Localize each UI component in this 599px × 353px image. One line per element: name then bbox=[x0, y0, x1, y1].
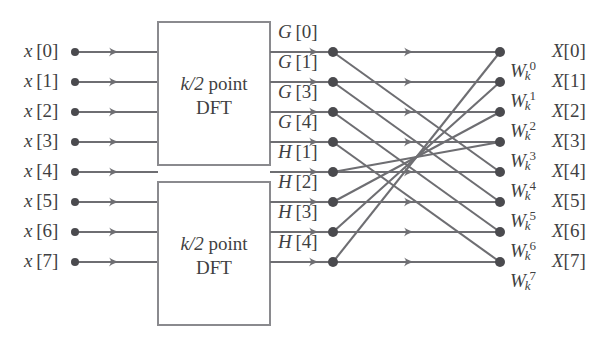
output-index-0: [0] bbox=[564, 40, 586, 61]
intermediate-label-4: H [1] bbox=[278, 142, 318, 161]
input-label-7: x [7] bbox=[24, 251, 58, 270]
butterfly-left-node-2 bbox=[328, 107, 338, 117]
input-dot-2 bbox=[71, 108, 79, 116]
twiddle-sup-5: 5 bbox=[530, 208, 537, 223]
butterfly-right-node-1 bbox=[495, 77, 505, 87]
output-index-2: [2] bbox=[564, 100, 586, 121]
twiddle-sup-3: 3 bbox=[530, 148, 537, 163]
intermediate-var-6: H bbox=[278, 201, 292, 222]
intermediate-label-2: G [3] bbox=[278, 82, 318, 101]
input-label-2: x [2] bbox=[24, 101, 58, 120]
dft-top-math: k/2 bbox=[180, 73, 203, 94]
input-index-1: [1] bbox=[32, 70, 58, 91]
output-label-4: X[4] bbox=[552, 161, 586, 180]
twiddle-base-2: W bbox=[510, 120, 526, 141]
input-label-3: x [3] bbox=[24, 131, 58, 150]
input-label-6: x [6] bbox=[24, 221, 58, 240]
twiddle-base-4: W bbox=[510, 180, 526, 201]
intermediate-var-0: G bbox=[278, 21, 292, 42]
input-index-2: [2] bbox=[32, 100, 58, 121]
intermediate-var-7: H bbox=[278, 231, 292, 252]
output-var-4: X bbox=[552, 160, 564, 181]
intermediate-label-5: H [2] bbox=[278, 172, 318, 191]
twiddle-sup-1: 1 bbox=[530, 88, 537, 103]
intermediate-index-1: [1] bbox=[292, 51, 318, 72]
output-label-7: X[7] bbox=[552, 251, 586, 270]
twiddle-base-0: W bbox=[510, 60, 526, 81]
output-label-5: X[5] bbox=[552, 191, 586, 210]
output-var-0: X bbox=[552, 40, 564, 61]
intermediate-index-2: [3] bbox=[292, 81, 318, 102]
fft-butterfly-diagram: x [0]x [1]x [2]x [3]x [4]x [5]x [6]x [7]… bbox=[0, 0, 599, 353]
dft-top-block-label: k/2 point DFT bbox=[160, 72, 268, 120]
butterfly-left-node-3 bbox=[328, 137, 338, 147]
butterfly-right-node-7 bbox=[495, 257, 505, 267]
dft-bottom-math: k/2 bbox=[180, 233, 203, 254]
input-index-6: [6] bbox=[32, 220, 58, 241]
input-dots bbox=[71, 48, 79, 266]
output-var-7: X bbox=[552, 250, 564, 271]
input-label-1: x [1] bbox=[24, 71, 58, 90]
input-dot-1 bbox=[71, 78, 79, 86]
twiddle-label-3: Wk3 bbox=[510, 149, 536, 172]
intermediate-label-1: G [1] bbox=[278, 52, 318, 71]
twiddle-sup-7: 7 bbox=[530, 268, 537, 283]
twiddle-sup-0: 0 bbox=[530, 58, 537, 73]
input-index-3: [3] bbox=[32, 130, 58, 151]
intermediate-var-4: H bbox=[278, 141, 292, 162]
output-label-3: X[3] bbox=[552, 131, 586, 150]
butterfly-right-node-2 bbox=[495, 107, 505, 117]
dft-block-outlines bbox=[158, 22, 270, 325]
intermediate-index-4: [1] bbox=[292, 141, 318, 162]
output-index-6: [6] bbox=[564, 220, 586, 241]
twiddle-label-7: Wk7 bbox=[510, 269, 536, 292]
input-dot-4 bbox=[71, 168, 79, 176]
intermediate-var-5: H bbox=[278, 171, 292, 192]
twiddle-label-1: Wk1 bbox=[510, 89, 536, 112]
dft-top-rest: point bbox=[204, 73, 248, 94]
twiddle-base-7: W bbox=[510, 270, 526, 291]
output-label-0: X[0] bbox=[552, 41, 586, 60]
twiddle-sup-4: 4 bbox=[530, 178, 537, 193]
twiddle-base-6: W bbox=[510, 240, 526, 261]
twiddle-label-6: Wk6 bbox=[510, 239, 536, 262]
twiddle-label-2: Wk2 bbox=[510, 119, 536, 142]
twiddle-base-1: W bbox=[510, 90, 526, 111]
input-label-5: x [5] bbox=[24, 191, 58, 210]
output-var-3: X bbox=[552, 130, 564, 151]
intermediate-label-3: G [4] bbox=[278, 112, 318, 131]
input-signal-lines bbox=[75, 52, 158, 262]
butterfly-right-node-3 bbox=[495, 137, 505, 147]
butterfly-right-node-6 bbox=[495, 227, 505, 237]
input-dot-7 bbox=[71, 258, 79, 266]
output-index-3: [3] bbox=[564, 130, 586, 151]
intermediate-label-7: H [4] bbox=[278, 232, 318, 251]
dft-bottom-rest: point bbox=[204, 233, 248, 254]
intermediate-index-0: [0] bbox=[292, 21, 318, 42]
butterfly-cross-7-to-0 bbox=[333, 52, 500, 262]
output-var-5: X bbox=[552, 190, 564, 211]
input-index-4: [4] bbox=[32, 160, 58, 181]
butterfly-left-node-5 bbox=[328, 197, 338, 207]
input-dot-0 bbox=[71, 48, 79, 56]
input-dot-6 bbox=[71, 228, 79, 236]
input-index-7: [7] bbox=[32, 250, 58, 271]
output-label-2: X[2] bbox=[552, 101, 586, 120]
output-index-1: [1] bbox=[564, 70, 586, 91]
output-var-2: X bbox=[552, 100, 564, 121]
butterfly-right-node-0 bbox=[495, 47, 505, 57]
twiddle-label-0: Wk0 bbox=[510, 59, 536, 82]
output-index-4: [4] bbox=[564, 160, 586, 181]
intermediate-var-1: G bbox=[278, 51, 292, 72]
twiddle-sup-2: 2 bbox=[530, 118, 537, 133]
intermediate-label-0: G [0] bbox=[278, 22, 318, 41]
twiddle-label-5: Wk5 bbox=[510, 209, 536, 232]
output-index-5: [5] bbox=[564, 190, 586, 211]
dft-top-line2: DFT bbox=[196, 97, 232, 118]
butterfly-left-node-4 bbox=[328, 167, 338, 177]
twiddle-sup-6: 6 bbox=[530, 238, 537, 253]
twiddle-base-3: W bbox=[510, 150, 526, 171]
dft-bottom-block-label: k/2 point DFT bbox=[160, 232, 268, 280]
butterfly-left-node-6 bbox=[328, 227, 338, 237]
output-label-6: X[6] bbox=[552, 221, 586, 240]
